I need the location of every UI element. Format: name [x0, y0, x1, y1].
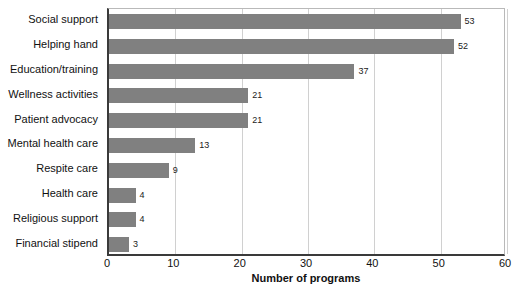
category-label: Patient advocacy — [0, 114, 103, 125]
category-label: Wellness activities — [0, 89, 103, 100]
bar-value-label: 21 — [252, 91, 262, 100]
bar-value-label: 4 — [140, 191, 145, 200]
category-label: Mental health care — [0, 138, 103, 149]
category-label: Helping hand — [0, 39, 103, 50]
bar — [109, 39, 454, 54]
x-tick-label: 40 — [366, 258, 378, 269]
category-label: Education/training — [0, 64, 103, 75]
bar-row: 4 — [109, 212, 504, 227]
gridline — [507, 9, 508, 254]
bar-row: 3 — [109, 237, 504, 252]
category-label: Religious support — [0, 213, 103, 224]
plot-area: 5352372121139443 — [107, 8, 505, 256]
bar — [109, 14, 461, 29]
bar-row: 53 — [109, 14, 504, 29]
x-tick-label: 20 — [234, 258, 246, 269]
bar-value-label: 21 — [252, 116, 262, 125]
bar — [109, 113, 248, 128]
bar — [109, 163, 169, 178]
bar-row: 21 — [109, 88, 504, 103]
bar-row: 4 — [109, 188, 504, 203]
bar — [109, 138, 195, 153]
x-tick-label: 30 — [300, 258, 312, 269]
bar-value-label: 9 — [173, 166, 178, 175]
bar-chart: Social supportHelping handEducation/trai… — [0, 0, 525, 291]
bar-row: 52 — [109, 39, 504, 54]
category-label: Respite care — [0, 163, 103, 174]
bar-value-label: 53 — [465, 17, 475, 26]
bar-row: 21 — [109, 113, 504, 128]
bar — [109, 64, 354, 79]
bar-row: 37 — [109, 64, 504, 79]
bar-value-label: 4 — [140, 215, 145, 224]
bar — [109, 88, 248, 103]
bar-value-label: 3 — [133, 240, 138, 249]
x-axis-title: Number of programs — [107, 273, 505, 284]
bars-layer: 5352372121139443 — [109, 9, 504, 254]
x-axis-tick-labels: 0102030405060 — [107, 258, 505, 272]
x-tick-label: 60 — [499, 258, 511, 269]
bar-value-label: 52 — [458, 42, 468, 51]
bar — [109, 237, 129, 252]
x-tick-label: 0 — [104, 258, 110, 269]
category-label: Social support — [0, 14, 103, 25]
bar-value-label: 13 — [199, 141, 209, 150]
category-axis-labels: Social supportHelping handEducation/trai… — [0, 8, 103, 256]
bar-row: 13 — [109, 138, 504, 153]
x-tick-label: 10 — [167, 258, 179, 269]
bar — [109, 188, 136, 203]
category-label: Health care — [0, 188, 103, 199]
bar-row: 9 — [109, 163, 504, 178]
category-label: Financial stipend — [0, 238, 103, 249]
x-tick-label: 50 — [433, 258, 445, 269]
bar-value-label: 37 — [358, 67, 368, 76]
bar — [109, 212, 136, 227]
